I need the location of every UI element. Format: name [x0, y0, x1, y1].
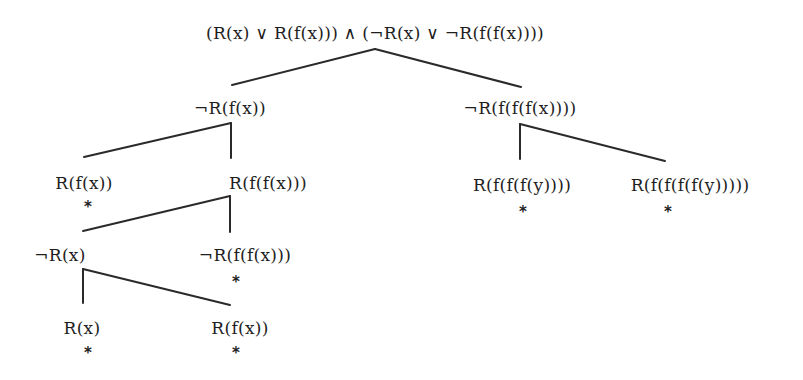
- edge-n1-n3: [84, 123, 231, 157]
- node-R-f-x-leaf: R(f(x)): [211, 318, 268, 338]
- node-not-R-x: ¬R(x): [34, 245, 85, 265]
- edge-n7-n10: [83, 269, 230, 305]
- edge-n2-n6: [520, 124, 665, 161]
- closed-branch-marker: *: [84, 344, 92, 362]
- node-not-R-fff-x: ¬R(f(f(f(x)))): [464, 98, 577, 118]
- closed-branch-marker: *: [84, 198, 92, 216]
- root-formula: (R(x) ∨ R(f(x))) ∧ (¬R(x) ∨ ¬R(f(f(x)))): [206, 23, 544, 43]
- closed-branch-marker: *: [519, 203, 527, 221]
- node-not-R-ff-x: ¬R(f(f(x))): [199, 245, 291, 265]
- node-R-f-x: R(f(x)): [55, 173, 112, 193]
- node-R-ffff-y: R(f(f(f(f(y))))): [631, 175, 750, 195]
- edge-root-n2: [375, 49, 521, 87]
- edge-root-n1: [232, 49, 375, 85]
- node-R-x: R(x): [64, 318, 101, 338]
- closed-branch-marker: *: [664, 203, 672, 221]
- node-R-ff-x: R(f(f(x))): [229, 173, 307, 193]
- node-not-R-f-x: ¬R(f(x)): [194, 98, 266, 118]
- node-R-fff-y: R(f(f(f(y)))): [473, 175, 571, 195]
- tableau-tree-diagram: (R(x) ∨ R(f(x))) ∧ (¬R(x) ∨ ¬R(f(f(x))))…: [0, 0, 803, 380]
- edge-n4-n7: [83, 196, 230, 231]
- closed-branch-marker: *: [232, 344, 240, 362]
- closed-branch-marker: *: [232, 273, 240, 291]
